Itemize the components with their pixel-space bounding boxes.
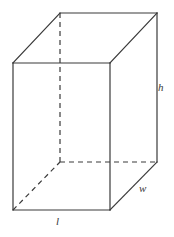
prism-figure: h w l: [0, 0, 174, 237]
length-label: l: [56, 216, 59, 227]
dashed-hidden-edges-group: [13, 13, 157, 210]
prism-drawing: [0, 0, 174, 237]
solid-edges-group: [13, 13, 157, 210]
bottom-right-diagonal-edge: [110, 162, 157, 210]
top-right-diagonal-edge: [110, 13, 157, 63]
width-label: w: [139, 183, 146, 194]
hidden-bottom-left-diagonal-edge: [13, 162, 60, 210]
height-label: h: [158, 82, 164, 93]
top-left-diagonal-edge: [13, 13, 60, 63]
